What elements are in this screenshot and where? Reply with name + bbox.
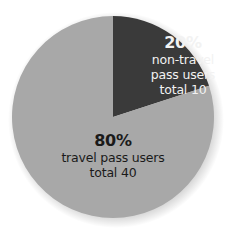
total-label: total 40 xyxy=(58,165,168,180)
category-label-line1: non-travel xyxy=(148,52,218,67)
percent-label: 80% xyxy=(58,132,168,150)
category-label: travel pass users xyxy=(58,150,168,165)
percent-label: 20% xyxy=(148,34,218,52)
slice-label-non-travel: 20% non-travel pass users total 10 xyxy=(148,34,218,97)
category-label-line2: pass users xyxy=(148,67,218,82)
total-label: total 10 xyxy=(148,82,218,97)
slice-label-travel: 80% travel pass users total 40 xyxy=(58,132,168,180)
